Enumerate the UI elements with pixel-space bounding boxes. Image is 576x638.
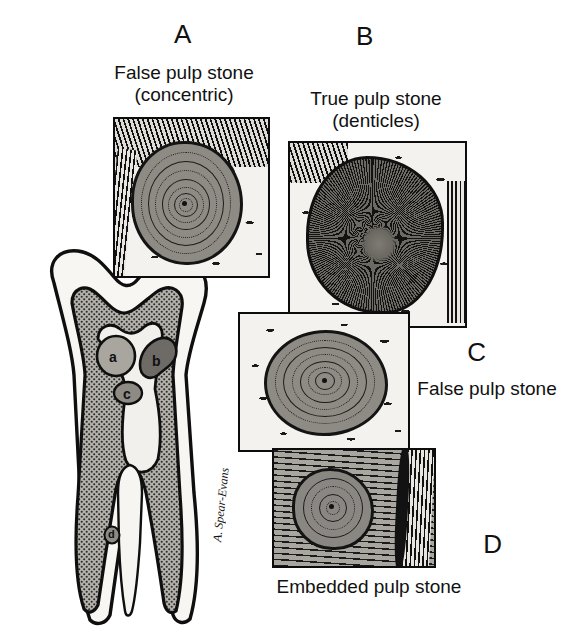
panel-image-a <box>113 117 270 278</box>
panel-image-b <box>288 141 467 328</box>
panel-b-dentin-hatch-right <box>447 181 467 323</box>
panel-caption-d-line1: Embedded pulp stone <box>254 576 484 597</box>
panel-caption-a-line1: False pulp stone <box>88 62 280 83</box>
panel-caption-c-line1: False pulp stone <box>398 378 576 399</box>
panel-b-true-denticle <box>306 156 444 314</box>
tooth-stone-label-b: b <box>152 353 161 369</box>
panel-letter-a: A <box>138 20 228 49</box>
panel-letter-b: B <box>320 22 410 51</box>
panel-caption-b-line1: True pulp stone <box>280 88 472 109</box>
panel-a-pulp-stone <box>131 141 243 265</box>
panel-caption-a-line2: (concentric) <box>88 84 280 105</box>
pulp-stone-figure: A False pulp stone (concentric) B True p… <box>0 0 576 638</box>
tooth-cross-section-diagram: a b c d A. Spear-Evans <box>18 243 238 628</box>
panel-image-d <box>272 448 436 568</box>
panel-letter-d: D <box>448 530 538 559</box>
panel-image-c <box>238 312 410 452</box>
panel-letter-c: C <box>432 338 522 367</box>
tooth-stone-label-a: a <box>109 349 117 365</box>
tooth-stone-label-c: c <box>123 386 131 402</box>
panel-c-pulp-stone <box>264 330 388 436</box>
tooth-stone-label-d: d <box>108 528 115 540</box>
panel-caption-b-line2: (denticles) <box>280 110 472 131</box>
panel-b-denticle-core <box>362 226 396 262</box>
panel-d-embedded-stone <box>292 468 374 550</box>
